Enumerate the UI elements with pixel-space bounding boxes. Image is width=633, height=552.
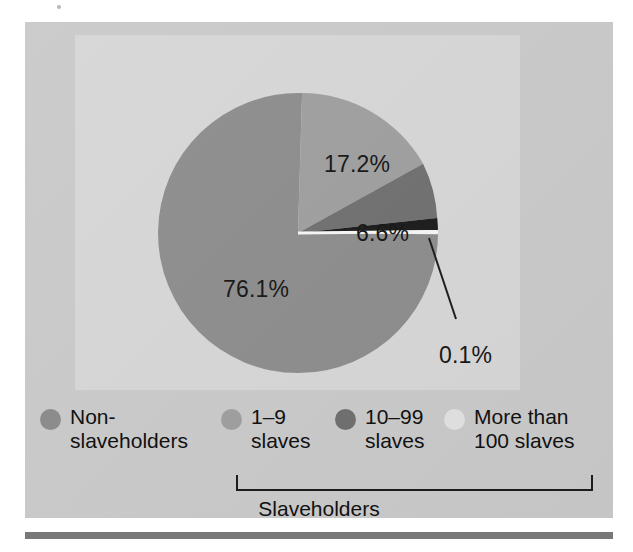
- legend-item-10-99-slaves: 10–99 slaves: [335, 405, 425, 452]
- legend-label-1-9-slaves: 1–9 slaves: [251, 405, 311, 452]
- pie-chart: [25, 22, 613, 422]
- bottom-rule: [25, 532, 613, 539]
- leader-line-100-plus-slaves: [429, 238, 456, 319]
- pie-value-label-10-99-slaves: 6.6%: [356, 220, 409, 247]
- legend-swatch-non-slaveholders: [40, 409, 61, 430]
- pie-value-label-1-9-slaves: 17.2%: [324, 151, 390, 178]
- legend-item-non-slaveholders: Non- slaveholders: [40, 405, 188, 452]
- legend-label-10-99-slaves: 10–99 slaves: [365, 405, 425, 452]
- legend-item-1-9-slaves: 1–9 slaves: [221, 405, 311, 452]
- legend-item-100-plus-slaves: More than 100 slaves: [444, 405, 574, 452]
- scan-speck: [57, 5, 61, 9]
- chart-legend: Non- slaveholders 1–9 slaves 10–99 slave…: [25, 405, 613, 475]
- legend-label-100-plus-slaves: More than 100 slaves: [474, 405, 574, 452]
- legend-swatch-100-plus-slaves: [444, 409, 465, 430]
- pie-value-label-100-plus-slaves: 0.1%: [439, 342, 492, 369]
- legend-swatch-10-99-slaves: [335, 409, 356, 430]
- slaveholders-bracket: [236, 475, 593, 491]
- pie-value-label-non-slaveholders: 76.1%: [223, 276, 289, 303]
- slaveholders-group-caption: Slaveholders: [25, 497, 613, 521]
- legend-label-non-slaveholders: Non- slaveholders: [70, 405, 188, 452]
- legend-swatch-1-9-slaves: [221, 409, 242, 430]
